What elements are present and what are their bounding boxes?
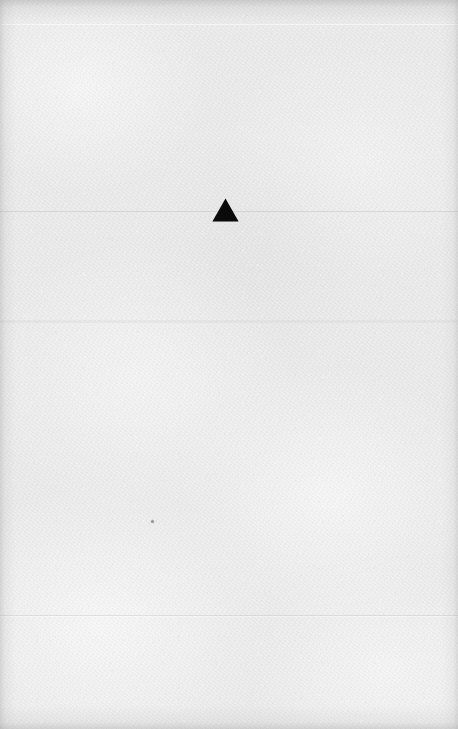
triangle-icon [212, 198, 239, 222]
paper-speck [151, 520, 154, 523]
paper-speckle-grain [0, 0, 458, 729]
scanned-page [0, 0, 458, 729]
triangle-shape [212, 198, 238, 221]
